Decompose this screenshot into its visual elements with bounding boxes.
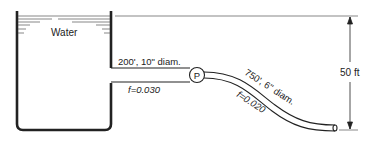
pipe-system-diagram: Water 200', 10" diam. f=0.030 P 750', 6"… [0, 0, 374, 143]
pipe-1-friction-label: f=0.030 [128, 84, 161, 95]
pipe-1 [111, 68, 190, 82]
elevation-label: 50 ft [340, 67, 360, 78]
pipe-2-friction-label: f=0.020 [235, 88, 268, 115]
pipe-1-length-label: 200', 10" diam. [118, 56, 181, 67]
pump-label: P [194, 70, 200, 81]
tank-label: Water [51, 27, 78, 38]
